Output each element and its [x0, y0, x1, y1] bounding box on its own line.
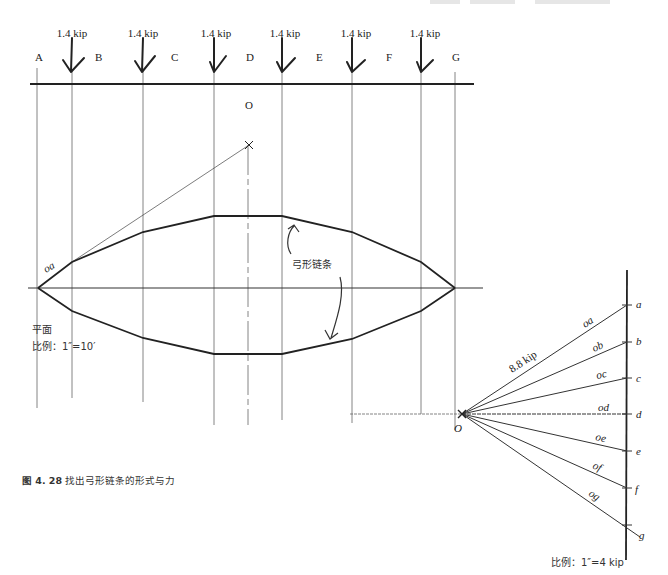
plan-scale: 比例：1″=10′	[32, 340, 96, 352]
load-labels: 1.4 kip 1.4 kip 1.4 kip 1.4 kip 1.4 kip …	[57, 27, 441, 39]
svg-text:1.4 kip: 1.4 kip	[201, 27, 232, 39]
force-point-labels: a b c d e f g	[635, 298, 645, 541]
svg-text:of: of	[591, 459, 605, 474]
svg-text:g: g	[639, 529, 645, 541]
svg-text:1.4 kip: 1.4 kip	[410, 27, 441, 39]
svg-text:A: A	[35, 51, 43, 63]
svg-text:B: B	[95, 51, 102, 63]
svg-text:b: b	[636, 335, 642, 347]
svg-text:D: D	[246, 51, 254, 63]
svg-text:c: c	[636, 372, 641, 384]
chain-annotation: 弓形链条	[292, 258, 332, 270]
svg-text:f: f	[635, 483, 640, 495]
svg-text:d: d	[636, 408, 642, 420]
bow-chain-diagram: 1.4 kip 1.4 kip 1.4 kip 1.4 kip 1.4 kip …	[0, 0, 668, 575]
annotation-arrow-down	[325, 277, 342, 339]
svg-text:og: og	[587, 487, 603, 503]
svg-text:od: od	[598, 401, 610, 413]
svg-text:F: F	[386, 51, 392, 63]
svg-text:图 4. 28: 图 4. 28	[22, 475, 62, 486]
svg-text:1.4 kip: 1.4 kip	[270, 27, 301, 39]
svg-text:e: e	[636, 445, 641, 457]
svg-text:ob: ob	[590, 338, 605, 354]
figure-caption: 图 4. 28 找出弓形链条的形式与力	[22, 475, 175, 486]
force-pole-label: O	[454, 422, 462, 434]
segment-label-oa: oa	[41, 259, 57, 275]
svg-text:E: E	[316, 51, 323, 63]
plan-pole-label: O	[245, 99, 253, 111]
load-line	[626, 270, 627, 560]
lower-bow-chain	[38, 288, 455, 354]
space-labels: A B C D E F G	[35, 51, 460, 63]
svg-text:C: C	[171, 51, 178, 63]
ray-labels: oa ob oc od oe of og	[580, 313, 610, 503]
svg-text:oe: oe	[595, 430, 608, 444]
force-polygon	[458, 270, 640, 560]
svg-text:a: a	[636, 298, 642, 310]
annotation-arrow-up	[288, 225, 299, 254]
svg-text:1.4 kip: 1.4 kip	[57, 27, 88, 39]
svg-text:G: G	[452, 51, 460, 63]
construction-line	[72, 145, 249, 262]
force-scale: 比例：1″=4 kip	[551, 556, 624, 568]
plan-title: 平面	[32, 324, 52, 335]
svg-text:1.4 kip: 1.4 kip	[128, 27, 159, 39]
svg-text:oc: oc	[595, 367, 608, 381]
resultant-label: 8.8 kip	[507, 348, 540, 375]
svg-text:1.4 kip: 1.4 kip	[341, 27, 372, 39]
upper-bow-chain	[38, 216, 455, 288]
svg-text:找出弓形链条的形式与力: 找出弓形链条的形式与力	[65, 475, 175, 486]
running-header	[430, 0, 610, 4]
